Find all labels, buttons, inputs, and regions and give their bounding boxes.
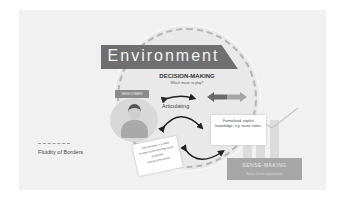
legend-label: Fluidity of Borders: [38, 149, 83, 155]
sense-making-subtitle: Sense of own improvement: [227, 172, 302, 176]
sense-making-title: SENSE-MAKING: [227, 162, 302, 168]
legend-dash-icon: [38, 143, 70, 144]
formal-knowledge-card: Formalised, explicit knowledge, e.g. mus…: [211, 115, 266, 145]
